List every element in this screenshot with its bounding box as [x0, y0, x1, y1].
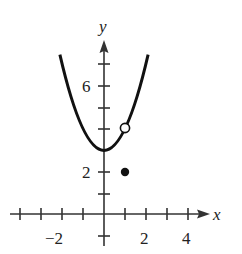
x-axis: [10, 208, 200, 220]
x-tick-label-neg2: −2: [45, 229, 63, 248]
open-circle-marker: [120, 123, 129, 132]
y-axis-label: y: [97, 17, 107, 36]
y-axis: [98, 48, 110, 246]
x-axis-label: x: [212, 205, 221, 224]
piecewise-graph: x y −2 2 4 2 6: [0, 0, 242, 254]
y-tick-label-6: 6: [82, 77, 91, 96]
filled-dot-marker: [121, 168, 129, 176]
x-tick-label-4: 4: [182, 229, 191, 248]
y-tick-label-2: 2: [82, 163, 91, 182]
x-tick-label-2: 2: [140, 229, 149, 248]
